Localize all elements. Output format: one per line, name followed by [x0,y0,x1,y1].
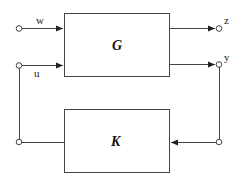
k-input-terminal [216,139,222,145]
label-block-k: K [110,134,122,149]
u-terminal [16,63,22,69]
w-terminal [16,26,22,32]
label-y: y [224,51,230,63]
label-block-g: G [112,38,122,53]
label-u: u [34,67,40,79]
label-w: w [36,14,44,26]
block-diagram: w u z y G K [0,0,242,184]
z-terminal [216,26,222,32]
y-terminal [216,62,222,68]
k-output-terminal [16,139,22,145]
label-z: z [224,14,229,26]
